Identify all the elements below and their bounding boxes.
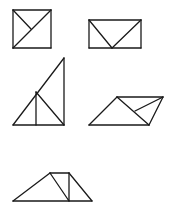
line-segment [117,97,149,125]
line-segment [13,58,64,125]
line-segment [112,20,141,48]
line-segment [50,173,69,201]
figure-trapezoid-subdivided [13,173,92,201]
line-segment [89,97,117,125]
line-segment [69,173,92,201]
line-segment [36,92,64,125]
figure-square-with-diagonal [13,10,51,48]
line-segment [13,173,50,201]
line-segment [89,20,112,48]
line-segment [13,10,31,29]
figure-right-triangle-subdivided [13,58,64,125]
figure-rectangle-with-v [89,20,141,48]
figure-parallelogram-subdivided [89,97,163,125]
geometric-figures-diagram [0,0,172,214]
